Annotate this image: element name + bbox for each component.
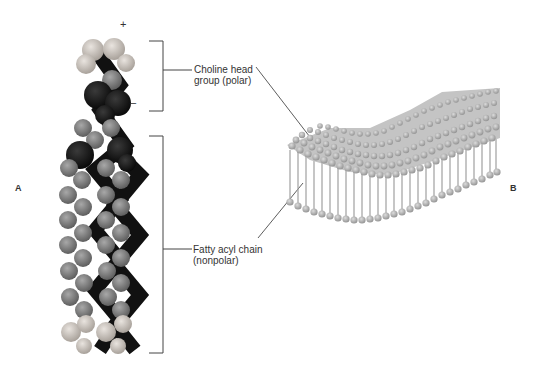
- phosphatidylcholine-space-filling-model: [59, 38, 140, 354]
- choline-head-label: Choline head group (polar): [194, 64, 253, 86]
- choline-head-label-line2: group (polar): [194, 75, 253, 86]
- fatty-acyl-bracket: [149, 136, 192, 353]
- choline-head-label-line1: Choline head: [194, 64, 253, 75]
- head-group-bracket: [149, 41, 192, 111]
- tail-leader-line: [258, 183, 303, 238]
- panel-b-letter: B: [510, 183, 517, 193]
- positive-charge-sign: +: [120, 18, 126, 30]
- fatty-acyl-label-line1: Fatty acyl chain: [193, 244, 262, 255]
- fatty-acyl-label-line2: (nonpolar): [193, 255, 262, 266]
- head-leader-line: [256, 67, 313, 141]
- diagram-canvas: [0, 0, 533, 374]
- panel-a-letter: A: [15, 183, 22, 193]
- negative-charge-sign: –: [130, 96, 136, 108]
- fatty-acyl-label: Fatty acyl chain (nonpolar): [193, 244, 262, 266]
- lipid-bilayer-illustration: [286, 88, 500, 224]
